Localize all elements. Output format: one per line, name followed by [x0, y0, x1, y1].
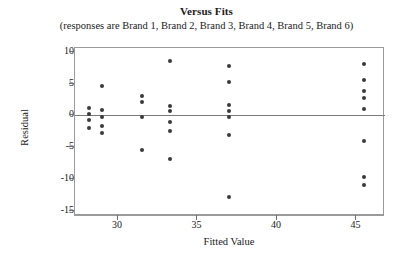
data-point — [168, 157, 172, 161]
data-point — [87, 118, 91, 122]
y-axis-title: Residual — [19, 83, 30, 173]
data-point — [87, 106, 91, 110]
data-point — [227, 103, 231, 107]
x-tick-mark — [196, 215, 197, 220]
data-point — [100, 115, 104, 119]
data-point — [362, 183, 366, 187]
data-point — [362, 175, 366, 179]
data-point — [140, 94, 144, 98]
data-point — [227, 195, 231, 199]
data-point — [227, 115, 231, 119]
y-axis-ticks: 1050-5-10-15 — [0, 0, 74, 264]
versus-fits-chart: Versus Fits (responses are Brand 1, Bran… — [0, 0, 413, 264]
data-point — [100, 131, 104, 135]
data-point — [140, 100, 144, 104]
x-tick-label: 45 — [335, 220, 375, 230]
x-tick-label: 30 — [97, 220, 137, 230]
data-point — [362, 139, 366, 143]
data-point — [168, 129, 172, 133]
data-point — [362, 89, 366, 93]
plot-area — [74, 47, 384, 215]
data-point — [168, 109, 172, 113]
data-point — [362, 62, 366, 66]
data-point — [100, 108, 104, 112]
x-axis-line — [74, 215, 384, 216]
x-tick-label: 35 — [176, 220, 216, 230]
x-tick-label: 40 — [256, 220, 296, 230]
data-point — [362, 107, 366, 111]
data-point — [87, 112, 91, 116]
data-point — [140, 115, 144, 119]
data-point — [362, 96, 366, 100]
data-point — [168, 104, 172, 108]
data-point — [227, 64, 231, 68]
x-tick-mark — [117, 215, 118, 220]
data-point — [227, 109, 231, 113]
data-point — [140, 148, 144, 152]
x-tick-mark — [355, 215, 356, 220]
data-point — [168, 120, 172, 124]
data-point — [227, 80, 231, 84]
data-point — [168, 59, 172, 63]
x-tick-mark — [276, 215, 277, 220]
x-axis-title: Fitted Value — [74, 236, 384, 247]
data-point — [100, 124, 104, 128]
data-point — [100, 84, 104, 88]
data-point — [227, 133, 231, 137]
data-point — [87, 126, 91, 130]
data-point — [362, 78, 366, 82]
